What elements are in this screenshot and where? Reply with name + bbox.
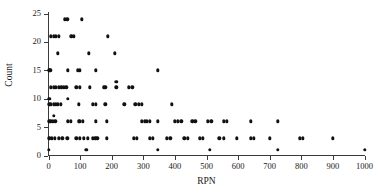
data-point	[87, 52, 90, 55]
data-point	[49, 69, 52, 72]
data-point	[276, 120, 279, 123]
data-point	[94, 69, 97, 72]
data-point	[105, 120, 108, 123]
data-point	[77, 103, 80, 106]
x-axis-tick-label: 800	[284, 162, 318, 171]
plot-area: 0510152025 01002003004005006007008009001…	[0, 0, 386, 196]
y-axis-tick-label: 25	[19, 9, 41, 18]
x-axis-tick-label: 200	[95, 162, 129, 171]
data-point	[72, 35, 75, 38]
scatter-chart-figure: 0510152025 01002003004005006007008009001…	[0, 0, 386, 196]
data-point	[210, 120, 213, 123]
data-point	[66, 137, 69, 140]
y-axis-tick	[44, 156, 48, 157]
data-point	[168, 137, 171, 140]
y-axis-tick-label: 0	[19, 151, 41, 160]
y-axis-tick	[44, 14, 48, 15]
x-axis-tick-label: 900	[316, 162, 350, 171]
data-point	[47, 97, 50, 100]
data-point	[85, 148, 88, 151]
data-point	[276, 148, 279, 151]
data-point	[61, 137, 64, 140]
x-axis-tick-label: 500	[190, 162, 224, 171]
data-point	[86, 137, 89, 140]
y-axis-tick-label: 10	[19, 94, 41, 103]
y-axis-tick-label: 15	[19, 66, 41, 75]
data-point	[156, 69, 159, 72]
data-point	[268, 137, 271, 140]
data-point	[331, 137, 334, 140]
data-point	[113, 52, 116, 55]
x-axis-tick-label: 1000	[348, 162, 382, 171]
x-axis-tick	[238, 156, 239, 160]
data-point	[64, 86, 67, 89]
x-axis-tick	[112, 156, 113, 160]
data-point	[52, 114, 55, 117]
data-point	[115, 80, 118, 83]
data-point	[140, 103, 143, 106]
data-point	[81, 120, 84, 123]
x-axis-tick	[301, 156, 302, 160]
x-axis-tick	[175, 156, 176, 160]
x-axis-tick	[365, 156, 366, 160]
y-axis-title: Count	[4, 50, 14, 100]
data-point	[56, 52, 59, 55]
y-axis-tick-label: 20	[19, 37, 41, 46]
data-point	[194, 120, 197, 123]
data-point	[148, 120, 151, 123]
data-point	[363, 148, 366, 151]
data-point	[105, 137, 108, 140]
x-axis-tick-label: 100	[63, 162, 97, 171]
data-point	[252, 137, 255, 140]
y-axis-tick	[44, 127, 48, 128]
y-axis-line	[48, 12, 49, 156]
data-point	[249, 120, 252, 123]
data-point	[201, 137, 204, 140]
data-point	[123, 103, 126, 106]
data-point	[66, 69, 69, 72]
data-point	[235, 137, 238, 140]
data-point	[94, 120, 97, 123]
data-point	[225, 120, 228, 123]
data-point	[88, 86, 91, 89]
data-point	[94, 103, 97, 106]
data-point	[208, 148, 211, 151]
data-point	[180, 120, 183, 123]
x-axis-tick	[270, 156, 271, 160]
data-point	[96, 137, 99, 140]
x-axis-tick-label: 300	[126, 162, 160, 171]
data-point	[54, 120, 57, 123]
x-axis-tick	[143, 156, 144, 160]
x-axis-tick	[80, 156, 81, 160]
x-axis-tick	[49, 156, 50, 160]
data-point	[151, 137, 154, 140]
data-point	[186, 137, 189, 140]
data-point	[47, 148, 50, 151]
x-axis-tick	[333, 156, 334, 160]
data-point	[135, 137, 138, 140]
data-point	[156, 120, 159, 123]
data-point	[82, 137, 85, 140]
data-point	[301, 137, 304, 140]
data-point	[80, 17, 83, 20]
x-axis-tick	[207, 156, 208, 160]
data-point	[78, 86, 81, 89]
data-point	[170, 103, 173, 106]
data-point	[104, 86, 107, 89]
data-point	[78, 69, 81, 72]
data-point	[66, 17, 69, 20]
x-axis-title: RPN	[48, 176, 365, 186]
data-point	[106, 35, 109, 38]
x-axis-tick-label: 0	[32, 162, 66, 171]
y-axis-tick-label: 5	[19, 123, 41, 132]
data-point	[104, 103, 107, 106]
data-point	[59, 103, 62, 106]
x-axis-tick-label: 700	[253, 162, 287, 171]
data-point	[222, 137, 225, 140]
x-axis-tick-label: 400	[158, 162, 192, 171]
x-axis-tick-label: 600	[221, 162, 255, 171]
data-point	[156, 148, 159, 151]
data-point	[131, 86, 134, 89]
y-axis-tick	[44, 42, 48, 43]
data-point	[217, 137, 220, 140]
